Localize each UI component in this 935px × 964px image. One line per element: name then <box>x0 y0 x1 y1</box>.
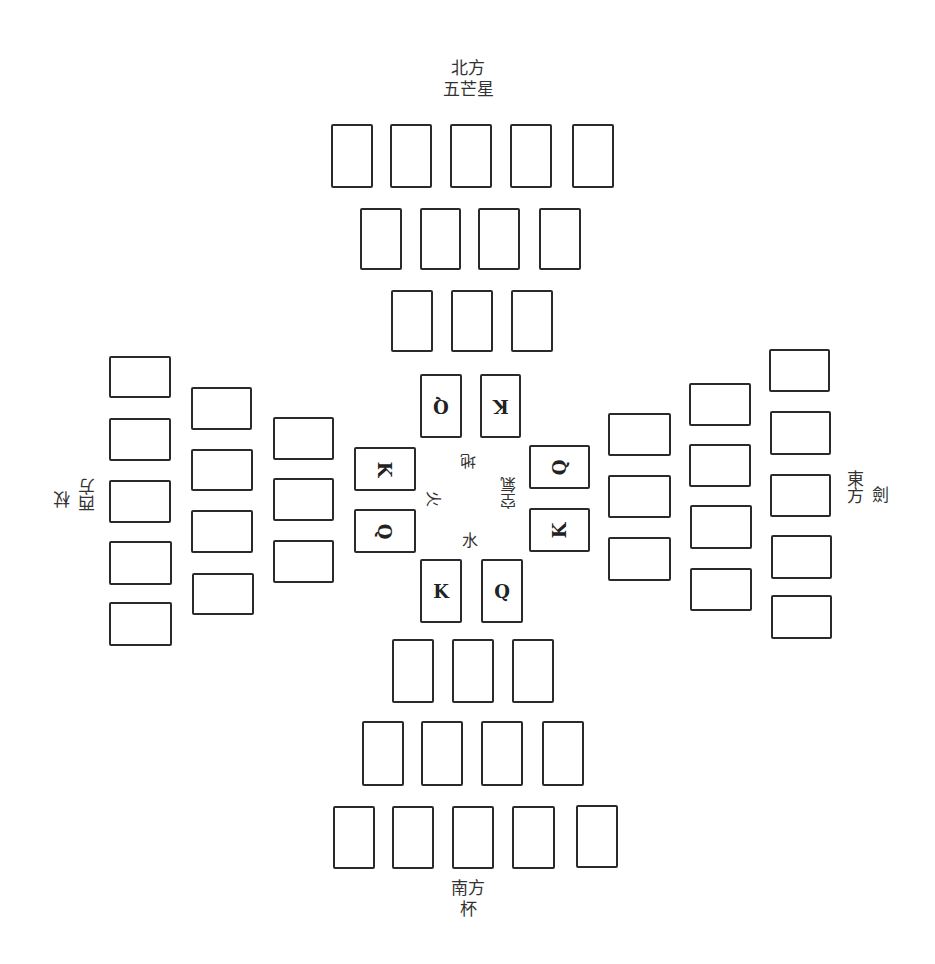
north-suit: 五芒星 <box>436 79 500 100</box>
center-card-east-king[interactable]: K <box>529 508 590 552</box>
south-label: 南方 杯 <box>436 878 500 921</box>
north-card[interactable] <box>390 124 432 188</box>
south-card[interactable] <box>542 721 584 786</box>
north-card[interactable] <box>510 124 552 188</box>
card-rank: Q <box>549 459 570 475</box>
east-card[interactable] <box>608 413 671 456</box>
west-card[interactable] <box>273 540 334 583</box>
east-direction: 東方 <box>843 470 864 504</box>
center-card-north-queen[interactable]: Q <box>420 374 462 438</box>
east-card[interactable] <box>770 474 831 517</box>
north-card[interactable] <box>391 290 433 352</box>
west-card[interactable] <box>109 356 171 398</box>
east-card[interactable] <box>608 537 671 581</box>
element-air-label: 空氣 <box>498 477 522 509</box>
west-card[interactable] <box>191 510 253 553</box>
card-rank: K <box>375 461 396 477</box>
east-card[interactable] <box>608 475 671 518</box>
west-card[interactable] <box>109 541 172 585</box>
south-card[interactable] <box>452 806 494 869</box>
west-card[interactable] <box>192 573 254 615</box>
north-direction: 北方 <box>436 58 500 79</box>
north-card[interactable] <box>331 124 373 188</box>
east-suit: 劍 <box>868 484 889 504</box>
east-card[interactable] <box>770 411 831 455</box>
south-suit: 杯 <box>436 899 500 920</box>
west-card[interactable] <box>191 387 252 430</box>
center-card-south-queen[interactable]: Q <box>481 559 523 623</box>
south-card[interactable] <box>421 721 463 786</box>
east-card[interactable] <box>771 595 832 639</box>
north-card[interactable] <box>572 124 614 188</box>
center-card-south-king[interactable]: K <box>420 559 462 623</box>
south-card[interactable] <box>333 806 375 869</box>
element-earth-label: 地 <box>460 450 476 474</box>
west-label: 西方 杖 <box>52 478 99 512</box>
west-card[interactable] <box>109 418 171 461</box>
east-card[interactable] <box>690 505 752 549</box>
east-card[interactable] <box>689 444 751 487</box>
north-card[interactable] <box>511 290 553 352</box>
west-direction: 西方 <box>77 478 98 512</box>
center-card-west-queen[interactable]: Q <box>354 509 416 553</box>
south-card[interactable] <box>512 639 554 703</box>
west-suit: 杖 <box>52 488 73 512</box>
center-card-north-king[interactable]: K <box>480 374 521 438</box>
east-card[interactable] <box>769 349 830 392</box>
west-card[interactable] <box>273 478 334 521</box>
north-card[interactable] <box>539 208 581 270</box>
element-fire-label: 火 <box>423 491 447 507</box>
north-card[interactable] <box>478 208 520 270</box>
north-label: 北方 五芒星 <box>436 58 500 101</box>
north-card[interactable] <box>360 208 402 270</box>
card-rank: Q <box>494 581 510 602</box>
card-rank: Q <box>375 523 396 539</box>
east-card[interactable] <box>690 568 752 611</box>
south-card[interactable] <box>481 721 523 786</box>
west-card[interactable] <box>109 480 171 523</box>
west-card[interactable] <box>109 602 172 646</box>
north-card[interactable] <box>451 290 493 352</box>
south-card[interactable] <box>512 806 555 869</box>
east-label: 東方 劍 <box>843 470 890 504</box>
south-card[interactable] <box>576 805 618 868</box>
west-card[interactable] <box>191 449 253 491</box>
card-rank: Q <box>433 396 449 417</box>
card-rank: K <box>493 396 509 417</box>
card-rank: K <box>549 522 570 538</box>
south-card[interactable] <box>362 721 404 786</box>
card-rank: K <box>433 581 449 602</box>
east-card[interactable] <box>689 383 751 426</box>
south-card[interactable] <box>392 639 434 703</box>
south-card[interactable] <box>452 639 494 703</box>
west-card[interactable] <box>273 417 334 460</box>
center-card-east-queen[interactable]: Q <box>529 445 590 489</box>
center-card-west-king[interactable]: K <box>354 447 416 491</box>
element-water-label: 水 <box>462 527 478 551</box>
north-card[interactable] <box>450 124 492 188</box>
north-card[interactable] <box>420 208 461 270</box>
south-direction: 南方 <box>436 878 500 899</box>
south-card[interactable] <box>392 806 434 869</box>
east-card[interactable] <box>771 535 832 579</box>
